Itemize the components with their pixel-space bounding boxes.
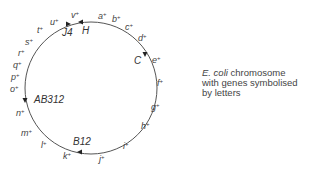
gene-i: i+ (123, 141, 129, 151)
marker-c: C (134, 55, 142, 66)
gene-k: k+ (63, 151, 72, 161)
gene-c: c+ (125, 22, 134, 32)
arrow-icon (77, 150, 82, 155)
gene-f: f+ (157, 78, 164, 88)
marker-ab312: AB312 (33, 94, 64, 105)
transfer-origin-markers: J4HCAB312B12 (23, 20, 148, 155)
caption: E. coli chromosome with genes symbolised… (202, 68, 298, 98)
arrow-icon (78, 20, 83, 25)
gene-b: b+ (112, 14, 121, 24)
gene-r: r+ (18, 48, 25, 58)
gene-a: a+ (98, 11, 107, 21)
gene-s: s+ (25, 37, 34, 47)
gene-e: e+ (152, 55, 161, 65)
gene-q: q+ (13, 60, 22, 70)
gene-o: o+ (10, 84, 19, 94)
gene-j: j+ (98, 154, 105, 164)
gene-n: n+ (16, 108, 25, 118)
gene-m: m+ (21, 128, 33, 138)
gene-p: p+ (10, 72, 20, 82)
chromosome-diagram: a+b+c+d+e+f+g+h+i+j+k+l+m+n+o+p+q+r+s+t+… (0, 0, 200, 169)
gene-u: u+ (50, 17, 59, 27)
gene-h: h+ (141, 121, 150, 131)
gene-v: v+ (71, 10, 80, 20)
gene-g: g+ (151, 102, 160, 112)
caption-line-3: by letters (202, 88, 298, 98)
gene-l: l+ (41, 140, 47, 150)
gene-d: d+ (138, 33, 147, 43)
gene-t: t+ (37, 25, 44, 35)
marker-h: H (82, 25, 90, 36)
marker-j4: J4 (61, 27, 73, 38)
marker-b12: B12 (73, 136, 91, 147)
arrow-icon (143, 52, 148, 57)
